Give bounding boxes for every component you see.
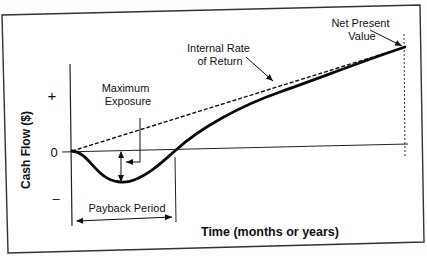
y-tick-plus: + bbox=[48, 87, 57, 104]
payback-label: Payback Period bbox=[88, 202, 165, 214]
x-axis-label: Time (months or years) bbox=[201, 225, 339, 239]
y-tick-minus: – bbox=[52, 191, 60, 206]
cash-flow-diagram: Net Present Value Internal Rate of Retur… bbox=[0, 0, 427, 256]
max-exposure-label: Maximum Exposure bbox=[102, 82, 153, 107]
y-tick-zero: 0 bbox=[50, 145, 57, 160]
y-axis-label: Cash Flow ($) bbox=[19, 111, 33, 189]
